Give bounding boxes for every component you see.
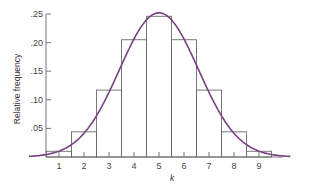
x-tick-label: 7 xyxy=(206,161,211,171)
x-axis-title: k xyxy=(170,173,175,183)
histogram-chart: 123456789 .05.10.15.20.25 k Relative fre… xyxy=(0,0,309,186)
y-ticks: .05.10.15.20.25 xyxy=(30,9,51,133)
x-tick-label: 9 xyxy=(256,161,261,171)
x-tick-label: 3 xyxy=(106,161,111,171)
bar-k3 xyxy=(97,90,122,157)
y-tick-label: .05 xyxy=(30,123,43,133)
y-tick-label: .10 xyxy=(30,95,43,105)
x-tick-label: 5 xyxy=(156,161,161,171)
y-tick-label: .15 xyxy=(30,66,43,76)
x-ticks: 123456789 xyxy=(56,152,261,171)
bars xyxy=(47,16,272,157)
y-tick-label: .25 xyxy=(30,9,43,19)
x-tick-label: 6 xyxy=(181,161,186,171)
bar-k5 xyxy=(147,16,172,157)
y-axis-title: Relative frequency xyxy=(12,53,22,124)
x-tick-label: 8 xyxy=(231,161,236,171)
y-tick-label: .20 xyxy=(30,38,43,48)
x-tick-label: 4 xyxy=(131,161,136,171)
x-tick-label: 2 xyxy=(81,161,86,171)
normal-curve xyxy=(29,13,290,157)
bar-k7 xyxy=(197,90,222,157)
x-tick-label: 1 xyxy=(56,161,61,171)
